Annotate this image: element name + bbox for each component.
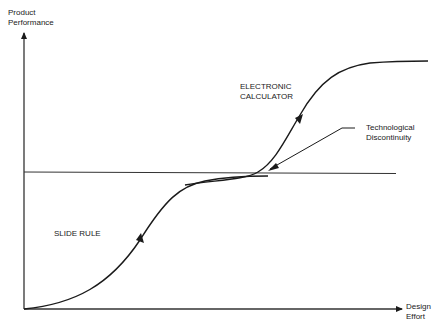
calculator-label-line2: CALCULATOR <box>240 92 293 102</box>
y-axis-label: Product Performance <box>8 8 54 28</box>
x-axis-label-line2: Effort <box>406 312 431 322</box>
x-axis-label-line1: Design <box>406 302 431 312</box>
s-curve-diagram <box>0 0 444 332</box>
discontinuity-arrow-icon <box>268 163 279 171</box>
x-axis-label: Design Effort <box>406 302 431 322</box>
slide-rule-curve <box>24 176 268 309</box>
discontinuity-label: Technological Discontinuity <box>366 123 414 143</box>
discontinuity-pointer <box>270 128 355 169</box>
performance-limit-line <box>24 172 396 174</box>
calculator-label-line1: ELECTRONIC <box>240 82 293 92</box>
slide-rule-label: SLIDE RULE <box>54 229 101 239</box>
y-axis-label-line1: Product <box>8 8 54 18</box>
y-axis-label-line2: Performance <box>8 18 54 28</box>
electronic-calculator-label: ELECTRONIC CALCULATOR <box>240 82 293 102</box>
discontinuity-label-line2: Discontinuity <box>366 133 414 143</box>
discontinuity-label-line1: Technological <box>366 123 414 133</box>
